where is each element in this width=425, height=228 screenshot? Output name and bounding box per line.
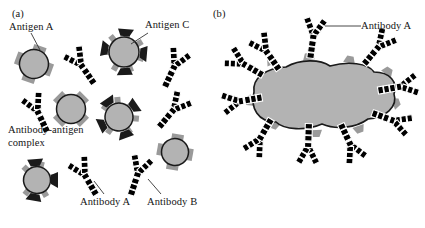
figure-canvas: .seg{stroke:#ffffff;stroke-width:1.1;} .… bbox=[0, 0, 425, 228]
antibody-antigen-complex-label: Antibody-antigen complex bbox=[8, 124, 104, 149]
antibody-a-label-panel-a: Antibody A bbox=[80, 196, 130, 208]
antibody-b1 bbox=[298, 16, 327, 60]
antigen-c-labeled bbox=[100, 28, 148, 75]
large-antigen-blob bbox=[253, 61, 395, 129]
antigen-right bbox=[154, 131, 196, 173]
antibody-a-midright bbox=[150, 88, 195, 135]
antibody-a-label-panel-b: Antibody A bbox=[361, 20, 411, 32]
antibody-a-labeled bbox=[65, 153, 106, 201]
antibody-b-label-panel-a: Antibody B bbox=[147, 196, 197, 208]
antigen-bottom bbox=[9, 152, 67, 211]
antibody-b-topright bbox=[154, 45, 193, 92]
antigen-a-labeled bbox=[10, 40, 59, 89]
leader-antibody-b bbox=[148, 179, 161, 194]
antigen-a-label: Antigen A bbox=[9, 21, 53, 33]
panel-b-graphics bbox=[220, 16, 421, 166]
antigen-c-label: Antigen C bbox=[145, 19, 189, 31]
panel-b-label: (b) bbox=[213, 8, 226, 20]
panel-a-graphics bbox=[9, 28, 196, 210]
antibody-b-top bbox=[61, 43, 104, 90]
panel-a-label: (a) bbox=[12, 8, 24, 20]
antibody-b-labeled bbox=[119, 152, 154, 198]
figure-container: .seg{stroke:#ffffff;stroke-width:1.1;} .… bbox=[0, 0, 425, 228]
